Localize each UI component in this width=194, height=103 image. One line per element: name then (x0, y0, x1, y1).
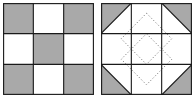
nine-patch-diagram (3, 3, 94, 95)
corner-triangle-block (101, 3, 192, 95)
cell-shaded (3, 3, 33, 34)
cell-shaded (33, 34, 63, 65)
nine-patch-block (3, 3, 94, 95)
cell-shaded (64, 64, 94, 95)
corner-triangle-diagram (101, 3, 192, 95)
cell-shaded (64, 3, 94, 34)
cell-shaded (3, 64, 33, 95)
